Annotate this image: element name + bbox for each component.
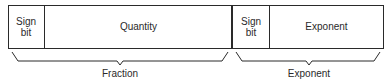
bit-text: bit — [233, 27, 269, 38]
exponent-sign-bit-label: Sign bit — [233, 16, 269, 38]
fraction-group-label: Fraction — [80, 68, 160, 79]
quantity-label: Quantity — [45, 21, 232, 32]
fraction-brace — [12, 52, 228, 65]
sign-text: Sign — [233, 16, 269, 27]
exponent-label: Exponent — [270, 21, 383, 32]
fraction-sign-bit-label: Sign bit — [8, 16, 44, 38]
bit-text: bit — [8, 27, 44, 38]
exponent-group-label: Exponent — [269, 68, 349, 79]
exponent-brace — [236, 52, 380, 65]
sign-text: Sign — [8, 16, 44, 27]
